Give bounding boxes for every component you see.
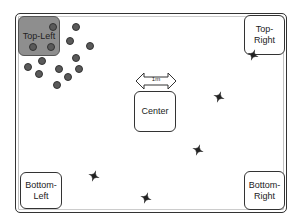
target-dot [24, 63, 32, 71]
target-dot [66, 37, 74, 45]
target-dot [29, 43, 37, 51]
zone-label: Center [141, 106, 168, 117]
scale-label: 1m [135, 76, 177, 82]
scale-bar: 1m [135, 72, 177, 90]
target-dot [72, 54, 80, 62]
target-dot [64, 73, 72, 81]
drone-icon [213, 89, 225, 101]
drone-icon [192, 142, 204, 154]
drone-icon [247, 47, 259, 59]
target-dot [38, 57, 46, 65]
zone-bottom-right: Bottom- Right [244, 171, 285, 210]
drone-icon [140, 190, 152, 202]
target-dot [72, 23, 80, 31]
target-dot [55, 65, 63, 73]
drone-icon [88, 168, 100, 180]
target-dot [49, 23, 57, 31]
zone-label: Top-Left [23, 31, 56, 42]
zone-label: Bottom- Left [25, 180, 57, 202]
target-dot [53, 81, 61, 89]
zone-top-left: Top-Left [18, 16, 60, 56]
zone-label: Bottom- Right [249, 180, 281, 202]
zone-bottom-left: Bottom- Left [20, 172, 62, 209]
zone-label: Top- Right [254, 24, 275, 46]
target-dot [86, 42, 94, 50]
target-dot [75, 65, 83, 73]
zone-center: Center [134, 91, 176, 132]
target-dot [35, 70, 43, 78]
target-dot [47, 43, 55, 51]
